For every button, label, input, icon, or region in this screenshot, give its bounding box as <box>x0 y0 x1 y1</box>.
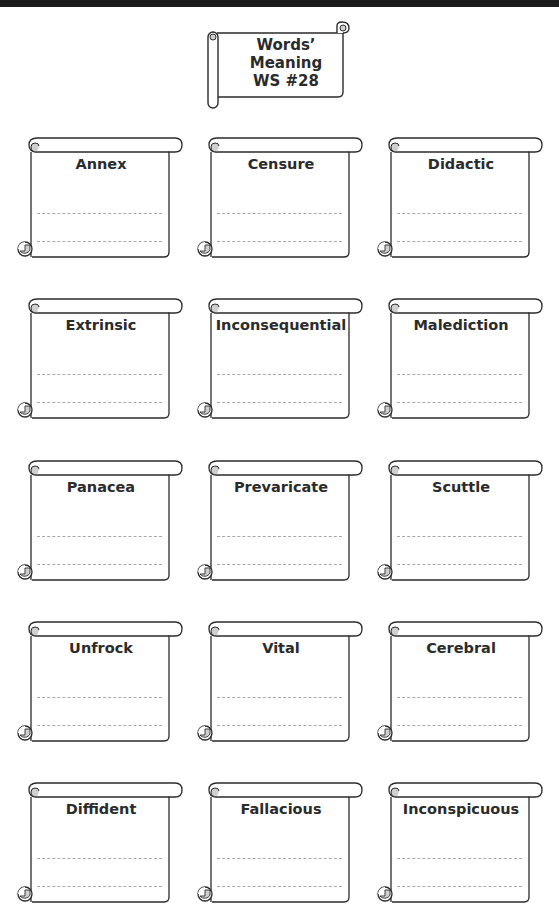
scroll-card-icon <box>377 296 547 426</box>
scroll-card-icon <box>197 780 367 910</box>
scroll-card-icon <box>377 458 547 588</box>
answer-line-2[interactable] <box>397 886 522 887</box>
answer-line-1[interactable] <box>397 858 522 859</box>
answer-line-1[interactable] <box>37 374 162 375</box>
title-line-2: Meaning <box>225 54 347 72</box>
answer-line-1[interactable] <box>37 858 162 859</box>
scroll-card-icon <box>197 296 367 426</box>
word-card: Cerebral <box>377 619 547 749</box>
vocabulary-word: Fallacious <box>213 801 349 817</box>
answer-line-2[interactable] <box>217 725 342 726</box>
scroll-card-icon <box>17 780 187 910</box>
word-card: Malediction <box>377 296 547 426</box>
answer-line-1[interactable] <box>37 213 162 214</box>
vocabulary-word: Unfrock <box>33 640 169 656</box>
word-card: Inconspicuous <box>377 780 547 910</box>
vocabulary-word: Prevaricate <box>213 479 349 495</box>
answer-line-2[interactable] <box>217 886 342 887</box>
answer-line-1[interactable] <box>37 536 162 537</box>
vocabulary-word: Vital <box>213 640 349 656</box>
answer-line-2[interactable] <box>397 564 522 565</box>
vocabulary-word: Diffident <box>33 801 169 817</box>
answer-line-1[interactable] <box>397 697 522 698</box>
scroll-card-icon <box>197 458 367 588</box>
title-line-1: Words’ <box>225 36 347 54</box>
word-card: Censure <box>197 135 367 265</box>
scroll-card-icon <box>17 135 187 265</box>
answer-line-2[interactable] <box>37 564 162 565</box>
word-card: Extrinsic <box>17 296 187 426</box>
scroll-card-icon <box>197 135 367 265</box>
answer-line-2[interactable] <box>217 402 342 403</box>
answer-line-1[interactable] <box>217 536 342 537</box>
vocabulary-word: Inconsequential <box>213 317 349 333</box>
scroll-card-icon <box>17 619 187 749</box>
worksheet-title-scroll: Words’ Meaning WS #28 <box>205 20 355 112</box>
vocabulary-word: Annex <box>33 156 169 172</box>
worksheet-title: Words’ Meaning WS #28 <box>225 36 347 90</box>
vocabulary-word: Censure <box>213 156 349 172</box>
scroll-card-icon <box>17 296 187 426</box>
top-banner <box>0 0 559 7</box>
answer-line-2[interactable] <box>397 725 522 726</box>
answer-line-2[interactable] <box>217 241 342 242</box>
vocabulary-word: Scuttle <box>393 479 529 495</box>
vocabulary-word: Inconspicuous <box>393 801 529 817</box>
vocabulary-word: Extrinsic <box>33 317 169 333</box>
word-card: Panacea <box>17 458 187 588</box>
answer-line-1[interactable] <box>397 213 522 214</box>
word-card: Fallacious <box>197 780 367 910</box>
vocabulary-word: Panacea <box>33 479 169 495</box>
answer-line-2[interactable] <box>37 886 162 887</box>
answer-line-2[interactable] <box>217 564 342 565</box>
scroll-card-icon <box>377 619 547 749</box>
vocabulary-word: Didactic <box>393 156 529 172</box>
answer-line-1[interactable] <box>217 213 342 214</box>
scroll-card-icon <box>197 619 367 749</box>
answer-line-1[interactable] <box>397 536 522 537</box>
vocabulary-word: Cerebral <box>393 640 529 656</box>
answer-line-1[interactable] <box>217 697 342 698</box>
word-card: Annex <box>17 135 187 265</box>
answer-line-2[interactable] <box>397 402 522 403</box>
answer-line-2[interactable] <box>397 241 522 242</box>
answer-line-2[interactable] <box>37 241 162 242</box>
title-line-3: WS #28 <box>225 72 347 90</box>
scroll-card-icon <box>377 135 547 265</box>
word-card: Didactic <box>377 135 547 265</box>
word-card: Vital <box>197 619 367 749</box>
word-card: Scuttle <box>377 458 547 588</box>
word-card: Unfrock <box>17 619 187 749</box>
answer-line-2[interactable] <box>37 725 162 726</box>
vocabulary-word: Malediction <box>393 317 529 333</box>
scroll-card-icon <box>17 458 187 588</box>
answer-line-2[interactable] <box>37 402 162 403</box>
word-card: Inconsequential <box>197 296 367 426</box>
word-card: Prevaricate <box>197 458 367 588</box>
answer-line-1[interactable] <box>37 697 162 698</box>
answer-line-1[interactable] <box>217 858 342 859</box>
scroll-card-icon <box>377 780 547 910</box>
answer-line-1[interactable] <box>217 374 342 375</box>
word-card: Diffident <box>17 780 187 910</box>
answer-line-1[interactable] <box>397 374 522 375</box>
